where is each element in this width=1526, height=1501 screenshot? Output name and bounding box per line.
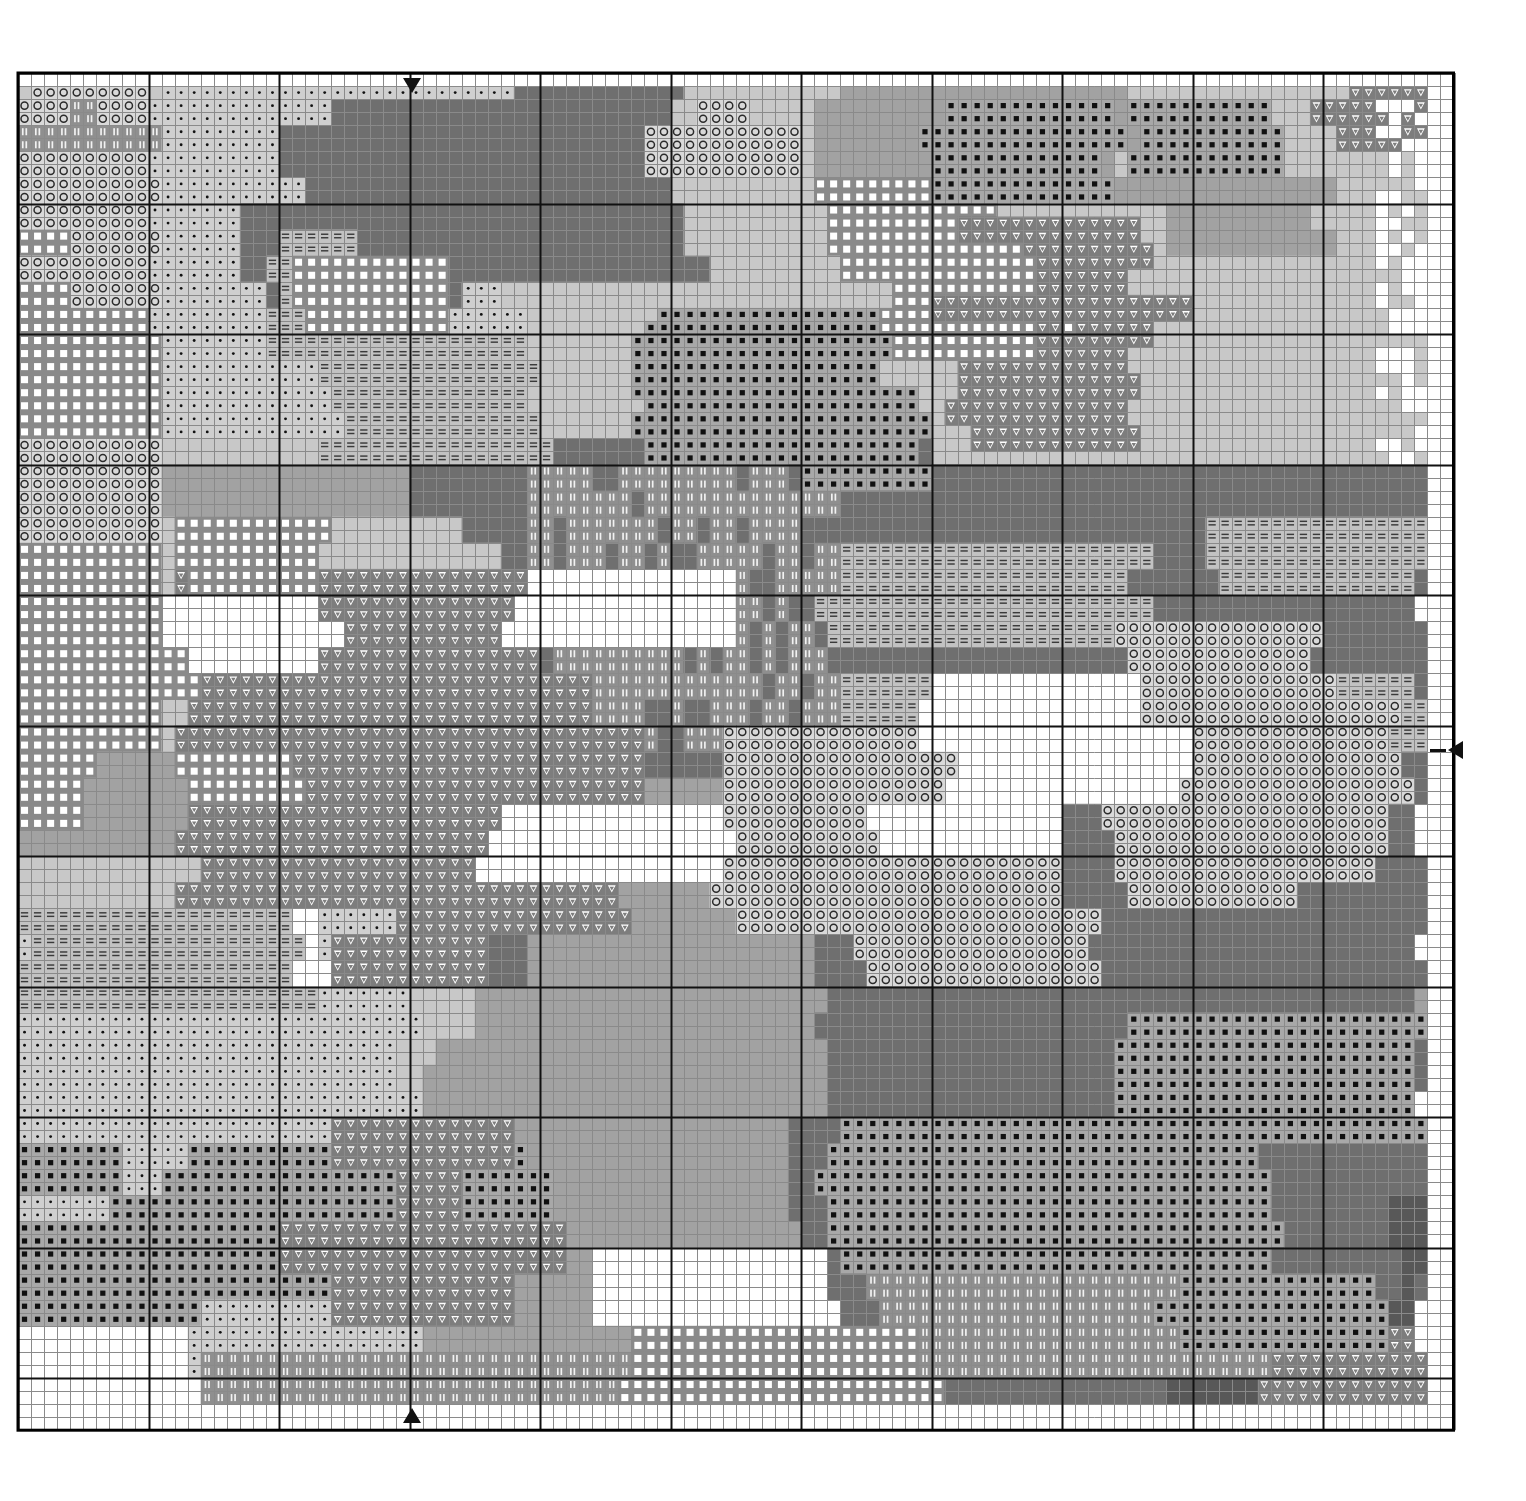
center-row-marker-right-icon — [1448, 741, 1463, 759]
pattern-grid-canvas[interactable] — [0, 0, 1526, 1501]
cross-stitch-chart: Counted Cross Stitch Pattern Chart A lar… — [0, 0, 1526, 1501]
center-column-marker-top-icon — [403, 78, 421, 93]
center-row-tick — [1430, 749, 1446, 752]
center-column-marker-bottom-icon — [403, 1408, 421, 1423]
